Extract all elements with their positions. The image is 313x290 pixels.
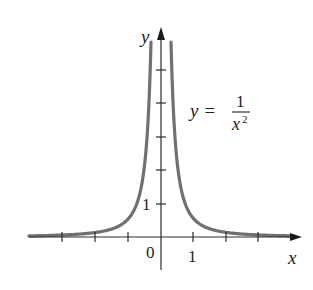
x-axis-arrow-icon: [290, 233, 302, 241]
x-tick-label-0: 0: [146, 243, 155, 262]
y-axis-arrow-icon: [157, 27, 165, 40]
y-tick-label-1: 1: [142, 195, 151, 214]
x-axis-label: x: [287, 247, 297, 268]
curve-left-branch: [29, 42, 151, 236]
equation-denominator: x: [231, 114, 240, 134]
equation-numerator: 1: [236, 92, 245, 111]
y-axis-label: y: [139, 26, 150, 47]
equation-exponent: 2: [242, 113, 248, 125]
equation-lhs: y =: [188, 100, 216, 121]
equation-label: y = 1 x 2: [188, 92, 250, 134]
chart-canvas: 0 1 1 x y y = 1 x 2: [0, 0, 313, 290]
x-tick-label-1: 1: [188, 247, 197, 266]
curve-right-branch: [171, 42, 293, 236]
